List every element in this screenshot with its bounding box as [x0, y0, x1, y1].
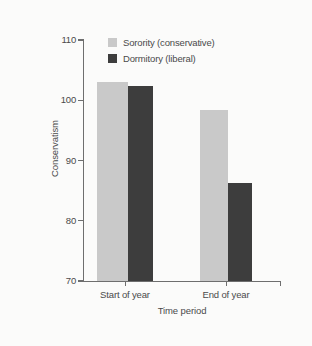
y-axis-title: Conservatism	[49, 89, 60, 209]
legend-item: Dormitory (liberal)	[108, 51, 215, 65]
bar-dormitory-1	[228, 183, 252, 281]
x-tick-label-1: End of year	[181, 289, 271, 300]
x-tick-0	[125, 281, 126, 286]
x-tick-label-0: Start of year	[80, 289, 170, 300]
bar-sorority-0	[97, 82, 128, 281]
legend-swatch-sorority	[108, 38, 117, 47]
legend-label-sorority: Sorority (conservative)	[123, 37, 215, 48]
legend-label-dormitory: Dormitory (liberal)	[123, 53, 196, 64]
chart-legend: Sorority (conservative) Dormitory (liber…	[108, 35, 215, 67]
x-tick-1	[226, 281, 227, 286]
bar-chart-figure: 708090100110 Start of yearEnd of year Co…	[0, 0, 312, 346]
plot-area	[84, 40, 280, 281]
x-axis-end-tick	[280, 281, 281, 286]
legend-swatch-dormitory	[108, 54, 117, 63]
bar-dormitory-0	[128, 86, 153, 281]
bar-sorority-1	[200, 110, 228, 281]
legend-item: Sorority (conservative)	[108, 35, 215, 49]
y-tick-label-110: 110	[48, 34, 76, 45]
y-tick-label-70: 70	[48, 275, 76, 286]
y-tick-label-80: 80	[48, 215, 76, 226]
x-axis-title: Time period	[84, 305, 280, 316]
